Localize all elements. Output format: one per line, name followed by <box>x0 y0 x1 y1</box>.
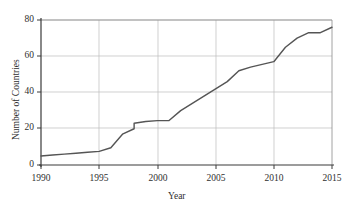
gridlines <box>41 20 332 165</box>
data-series-line <box>41 27 332 156</box>
ytick-label-80: 80 <box>16 15 34 25</box>
xtick-label-1995: 1995 <box>79 174 119 184</box>
y-axis-title: Number of Countries <box>12 59 22 140</box>
x-axis-title: Year <box>168 192 186 202</box>
chart-figure: 80 60 40 20 0 1990 1995 2000 2005 2010 2… <box>0 0 356 217</box>
xtick-label-1990: 1990 <box>21 174 61 184</box>
xtick-label-2005: 2005 <box>196 174 236 184</box>
ytick-label-0: 0 <box>16 160 34 170</box>
axis-ticks <box>37 20 332 169</box>
plot-frame <box>39 18 334 167</box>
xtick-label-2000: 2000 <box>138 174 178 184</box>
line-chart-plot <box>0 0 356 217</box>
xtick-label-2010: 2010 <box>254 174 294 184</box>
xtick-label-2015: 2015 <box>312 174 352 184</box>
